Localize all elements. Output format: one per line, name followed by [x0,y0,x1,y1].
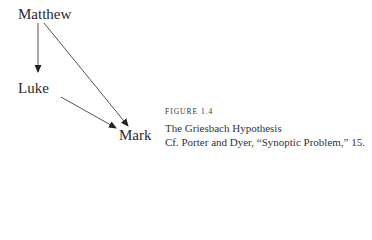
figure-label: FIGURE 1.4 [165,108,365,116]
figure-caption: FIGURE 1.4 The Griesbach Hypothesis Cf. … [165,108,365,149]
figure-title: The Griesbach Hypothesis [165,121,365,135]
figure-source: Cf. Porter and Dyer, “Synoptic Problem,”… [165,135,365,149]
